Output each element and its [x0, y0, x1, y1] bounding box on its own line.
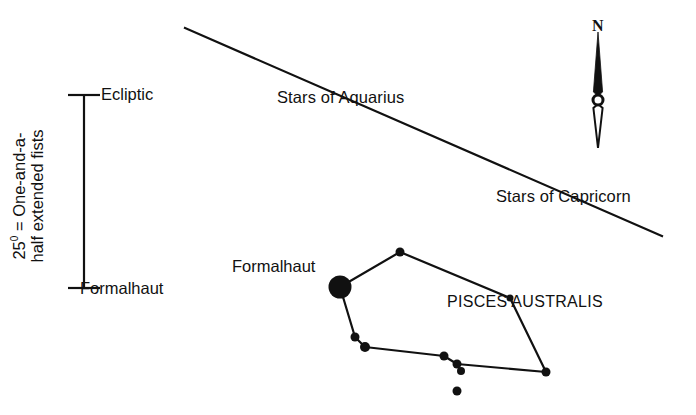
star-chart-figure: Ecliptic Formalhaut 250 = One-and-a- hal…: [0, 0, 696, 415]
compass-rose-group: [593, 32, 603, 148]
compass-north-needle-icon: [593, 32, 602, 96]
label-stars-of-capricorn: Stars of Capricorn: [496, 188, 631, 205]
chart-canvas: [0, 0, 696, 415]
star-bottom-right-vertex: [542, 368, 551, 377]
compass-pivot-icon: [593, 95, 603, 105]
scale-bar-top-label: Ecliptic: [101, 86, 153, 103]
label-constellation-name: PISCES AUSTRALIS: [447, 294, 603, 310]
star-elbow-lower: [360, 342, 370, 352]
asterism-segment: [365, 347, 444, 356]
asterism-segment: [400, 252, 510, 298]
scale-bar-group: [68, 95, 100, 288]
star-isolated-lower: [453, 387, 462, 396]
scale-bar-bottom-label: Formalhaut: [80, 280, 163, 297]
label-formalhaut-star: Formalhaut: [232, 258, 315, 275]
star-elbow-upper: [351, 333, 360, 342]
asterism-segment: [457, 364, 546, 372]
compass-south-needle-icon: [593, 104, 602, 148]
star-mid-chain: [440, 352, 449, 361]
star-pair-lower: [457, 367, 465, 375]
compass-north-label: N: [592, 18, 604, 34]
star-fomalhaut: [329, 276, 352, 299]
label-stars-of-aquarius: Stars of Aquarius: [277, 89, 404, 106]
star-top-vertex: [396, 248, 405, 257]
